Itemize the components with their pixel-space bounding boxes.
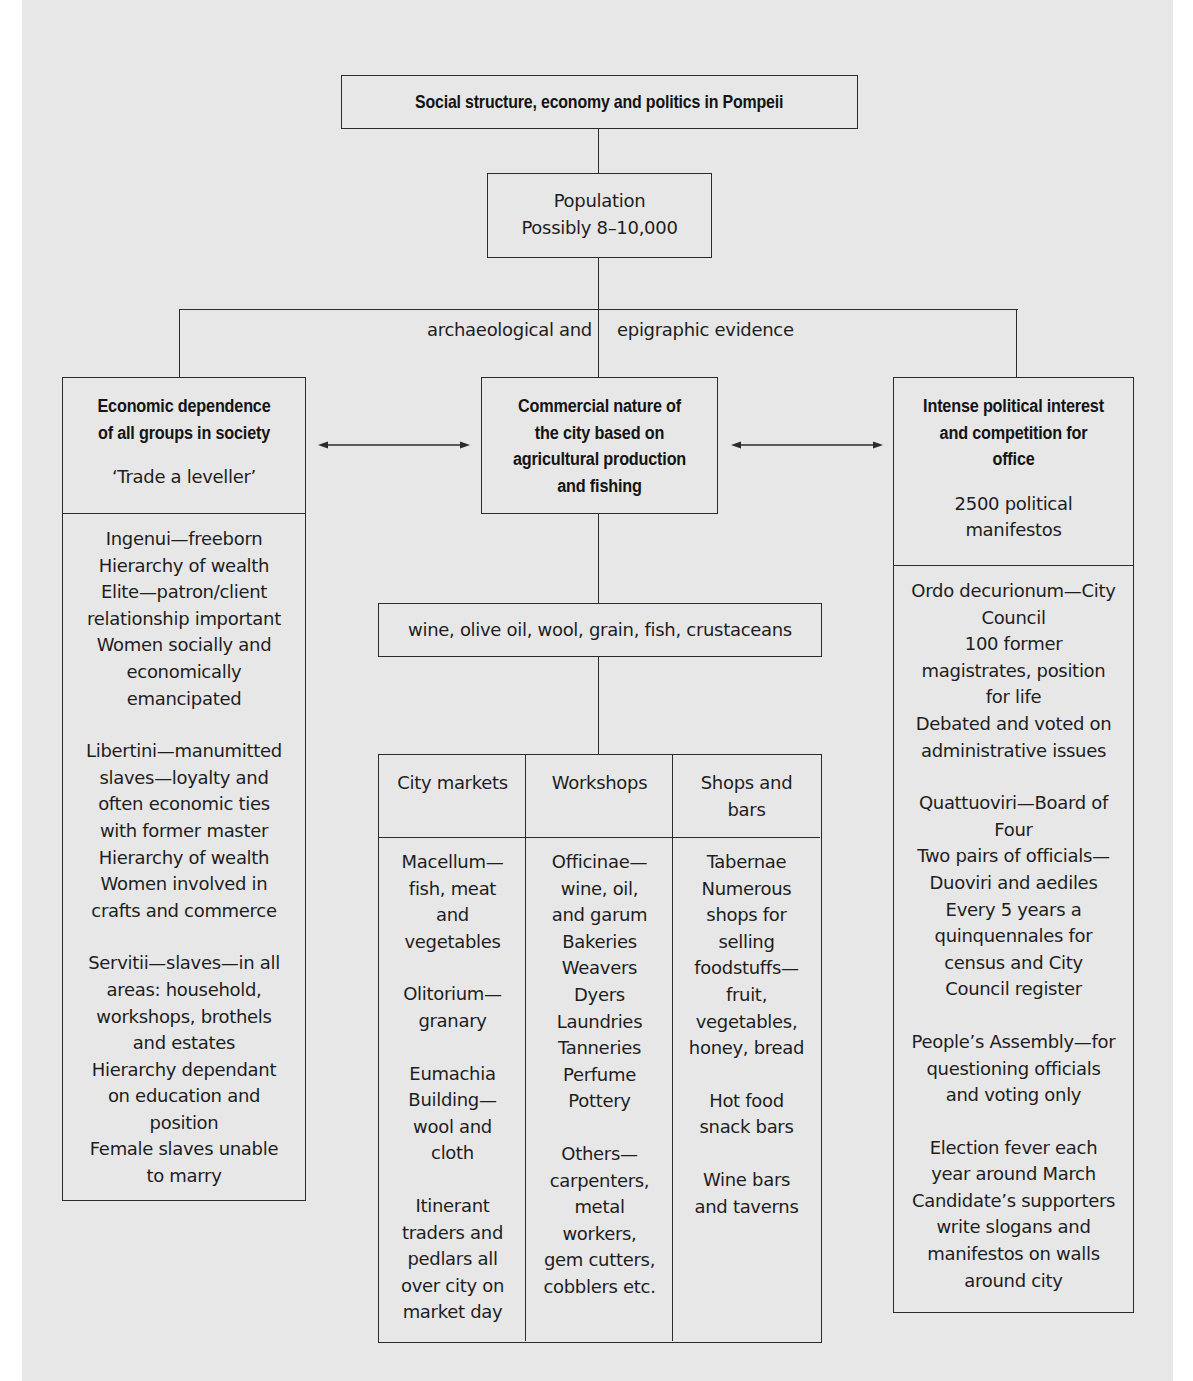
political-manifestos-count: 2500 political manifestos [894,491,1133,544]
title-box: Social structure, economy and politics i… [341,75,858,129]
trade-leveller-quote: ‘Trade a leveller’ [63,464,305,491]
wine-bars-entry: Wine bars and taverns [673,1167,820,1220]
snack-bars-entry: Hot food snack bars [673,1088,820,1141]
population-label: Population [488,188,711,215]
political-interest-heading: Intense political interest and competiti… [906,393,1121,473]
economic-dependence-heading: Economic dependence of all groups in soc… [75,393,293,446]
column-header-workshops: Workshops [526,770,673,797]
double-arrow-left-icon [318,440,470,450]
eumachia-entry: Eumachia Building— wool and cloth [379,1061,526,1167]
itinerant-traders-entry: Itinerant traders and pedlars all over c… [379,1193,526,1326]
political-institutions-list: Ordo decurionum—City Council 100 former … [894,566,1133,1294]
other-workshops-entry: Others— carpenters, metal workers, gem c… [526,1141,673,1301]
column-header-city-markets: City markets [379,770,526,797]
commerce-table: City markets Workshops Shops and bars Ma… [378,754,822,1343]
workshops-cell: Officinae— wine, oil, and garum Bakeries… [526,849,673,1301]
double-arrow-right-icon [731,440,883,450]
election-fever-entry: Election fever each year around March Ca… [894,1135,1133,1295]
economic-dependence-box: Economic dependence of all groups in soc… [62,377,306,1201]
population-value: Possibly 8–10,000 [488,215,711,242]
commercial-nature-heading: Commercial nature of the city based on a… [494,393,706,499]
connector-population-bar [598,258,599,378]
connector-bar-left [179,309,180,378]
connector-title-population [598,129,599,173]
olitorium-entry: Olitorium— granary [379,981,526,1034]
evidence-bar [179,309,1018,310]
officinae-entry: Officinae— wine, oil, and garum Bakeries… [526,849,673,1115]
quattuoviri-entry: Quattuoviri—Board of Four Two pairs of o… [894,790,1133,1003]
products-box: wine, olive oil, wool, grain, fish, crus… [378,603,822,657]
social-group-servitii: Servitii—slaves—in all areas: household,… [63,950,305,1189]
commercial-nature-box: Commercial nature of the city based on a… [481,377,718,514]
products-text: wine, olive oil, wool, grain, fish, crus… [408,617,792,644]
economic-dependence-header: Economic dependence of all groups in soc… [63,378,305,514]
macellum-entry: Macellum— fish, meat and vegetables [379,849,526,955]
connector-bar-right [1016,309,1017,378]
peoples-assembly-entry: People’s Assembly—for questioning offici… [894,1029,1133,1109]
social-group-libertini: Libertini—manumitted slaves—loyalty and … [63,738,305,924]
tabernae-entry: Tabernae Numerous shops for selling food… [673,849,820,1062]
connector-products-table [598,657,599,755]
social-groups-list: Ingenui—freeborn Hierarchy of wealth Eli… [63,514,305,1190]
connector-commercial-products [598,514,599,604]
evidence-label-right: epigraphic evidence [617,317,877,344]
header-divider [379,837,820,838]
title-text: Social structure, economy and politics i… [415,89,783,116]
social-group-ingenui: Ingenui—freeborn Hierarchy of wealth Eli… [63,526,305,712]
evidence-label-left: archaeological and [380,317,592,344]
population-box: Population Possibly 8–10,000 [487,173,712,258]
column-header-shops-bars: Shops and bars [673,770,820,823]
ordo-decurionum-entry: Ordo decurionum—City Council 100 former … [894,578,1133,764]
city-markets-cell: Macellum— fish, meat and vegetables Olit… [379,849,526,1326]
political-interest-box: Intense political interest and competiti… [893,377,1134,1313]
political-interest-header: Intense political interest and competiti… [894,378,1133,566]
shops-bars-cell: Tabernae Numerous shops for selling food… [673,849,820,1220]
